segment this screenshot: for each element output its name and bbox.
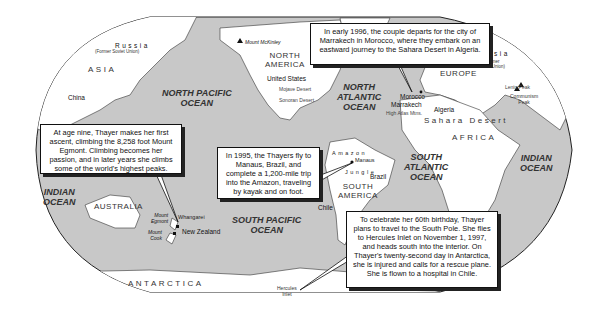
place-label-mojave-desert: Mojave Desert [279, 87, 311, 92]
callout-marrakech: In early 1996, the couple departs for th… [310, 23, 490, 65]
ocean-label-south-pacific: SOUTH PACIFIC OCEAN [232, 216, 301, 236]
place-label-sonoran-desert: Sonoran Desert [279, 98, 314, 103]
place-label-whangarei: Whangarei [178, 215, 205, 221]
country-label-new-zealand: New Zealand [182, 229, 220, 236]
callout-mount-egmont: At age nine, Thayer makes her first asce… [40, 124, 182, 174]
country-label-morocco: Morocco [400, 94, 425, 101]
place-label-lenin-peak: Lenin Peak [505, 85, 530, 90]
continent-label-asia: ASIA [88, 66, 116, 75]
place-label-manaus: Manaus [355, 158, 375, 164]
continent-label-north-america: NORTH AMERICA [265, 52, 305, 70]
country-label-united-states: United States [267, 76, 306, 83]
continent-label-africa: AFRICA [452, 134, 496, 143]
manaus-marker [350, 160, 353, 163]
place-label-mount-egmont: Mount Egmont [151, 213, 168, 224]
ocean-label-indian-east: INDIAN OCEAN [520, 154, 553, 174]
mount-egmont-marker [176, 225, 179, 228]
country-label-algeria: Algeria [434, 107, 454, 114]
ocean-label-north-pacific: NORTH PACIFIC OCEAN [162, 89, 232, 109]
place-label-communism-peak: Communism Peak [510, 94, 538, 105]
place-label-mount-cook: Mount Cook [148, 230, 162, 241]
country-label-russia-west-sub: (Former Soviet Union) [95, 50, 139, 55]
place-label-amazon: Amazon [332, 151, 367, 157]
place-label-high-atlas: High Atlas Mtns. [386, 111, 422, 116]
ocean-label-indian-west: INDIAN OCEAN [43, 188, 76, 208]
place-label-mount-mckinley: Mount McKinley [245, 40, 281, 46]
continent-label-antarctica: ANTARCTICA [128, 280, 204, 289]
country-label-chile: Chile [318, 205, 333, 212]
mount-cook-marker [173, 232, 176, 235]
place-label-sahara-desert: Sahara Desert [424, 117, 508, 126]
continent-label-europe: EUROPE [440, 70, 477, 79]
place-label-marrakech: Marrakech [391, 102, 422, 109]
ocean-label-north-atlantic: NORTH ATLANTIC OCEAN [337, 83, 381, 113]
ocean-label-south-atlantic: SOUTH ATLANTIC OCEAN [404, 153, 448, 183]
callout-amazon: In 1995, the Thayers fly to Manaus, Braz… [217, 147, 320, 199]
country-label-china: China [68, 95, 85, 102]
place-label-hercules-inlet: Hercules Inlet [277, 286, 297, 297]
continent-label-australia: AUSTRALIA [94, 203, 143, 212]
continent-label-south-america: SOUTH AMERICA [338, 183, 378, 201]
callout-antarctica: To celebrate her 60th birthday, Thayer p… [346, 211, 498, 288]
place-label-jungle: Jungle [345, 170, 376, 176]
